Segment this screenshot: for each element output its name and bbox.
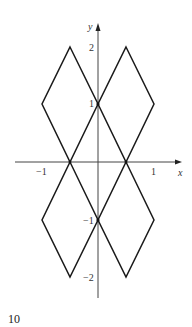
- lower-right-diamond: [98, 162, 154, 277]
- y-axis-label: y: [87, 21, 93, 32]
- diamond-graph-figure: −1 1 2 1 −1 −2 x y: [0, 0, 192, 327]
- figure-number: 10: [8, 312, 20, 327]
- point-0-neg1: [96, 218, 99, 221]
- y-tick-neg1: −1: [83, 215, 94, 226]
- point-0-1: [96, 102, 99, 105]
- y-axis-arrow-icon: [96, 23, 101, 31]
- x-tick-1: 1: [151, 166, 156, 177]
- point-half-0: [125, 161, 128, 164]
- x-tick-neg1: −1: [36, 166, 47, 177]
- upper-right-diamond: [98, 47, 154, 162]
- x-axis-label: x: [177, 167, 183, 178]
- y-tick-neg2: −2: [83, 272, 94, 283]
- point-neg-half-0: [69, 161, 72, 164]
- x-axis-arrow-icon: [175, 160, 182, 165]
- axes: [15, 23, 182, 298]
- y-tick-1: 1: [89, 98, 94, 109]
- y-tick-2: 2: [89, 42, 94, 53]
